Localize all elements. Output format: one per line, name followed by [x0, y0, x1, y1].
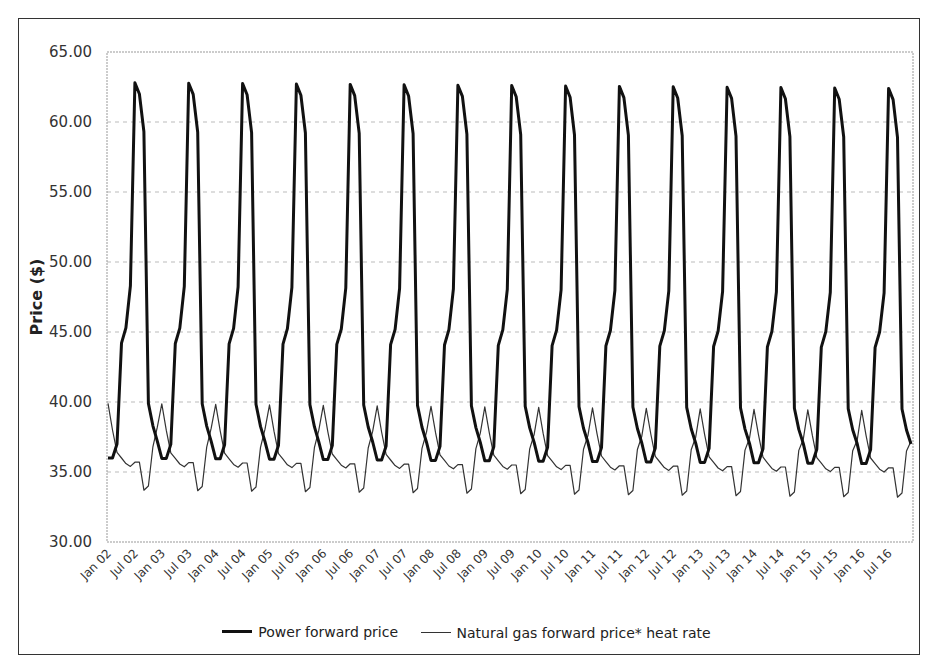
- x-axis-ticks: Jan 02Jul 02Jan 03Jul 03Jan 04Jul 04Jan …: [77, 546, 895, 583]
- y-tick-label: 45.00: [49, 323, 92, 341]
- legend-item-power: Power forward price: [222, 624, 398, 640]
- line-chart: 30.0035.0040.0045.0050.0055.0060.0065.00…: [0, 0, 933, 668]
- y-tick-label: 35.00: [49, 463, 92, 481]
- power-series-line: [108, 83, 911, 464]
- y-axis-label: Price ($): [27, 259, 46, 336]
- y-tick-label: 40.00: [49, 393, 92, 411]
- legend-label-power: Power forward price: [258, 624, 398, 640]
- legend-item-gas: Natural gas forward price* heat rate: [421, 625, 711, 641]
- thin-line-swatch-icon: [421, 632, 451, 633]
- y-tick-label: 50.00: [49, 253, 92, 271]
- thick-line-swatch-icon: [222, 630, 252, 633]
- legend-label-gas: Natural gas forward price* heat rate: [457, 625, 711, 641]
- y-tick-label: 30.00: [49, 533, 92, 551]
- x-tick-label: Jan 02: [77, 546, 114, 583]
- y-tick-label: 65.00: [49, 43, 92, 61]
- y-tick-label: 60.00: [49, 113, 92, 131]
- x-tick-label: Jul 16: [860, 546, 894, 580]
- y-tick-label: 55.00: [49, 183, 92, 201]
- legend: Power forward price Natural gas forward …: [0, 620, 933, 641]
- gas-series-line: [108, 403, 911, 497]
- y-axis-ticks: 30.0035.0040.0045.0050.0055.0060.0065.00: [49, 43, 92, 551]
